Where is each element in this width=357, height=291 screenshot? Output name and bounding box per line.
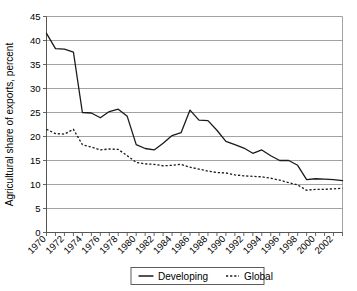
x-tick-label: 1996 [258,233,281,256]
x-tick-label: 2002 [312,233,335,256]
x-tick-label: 1988 [187,233,210,256]
x-tick-label: 1970 [25,233,48,256]
y-tick-label: 40 [30,35,41,46]
y-tick-label: 45 [30,11,41,22]
y-tick-label: 15 [30,155,41,166]
data-series-group [47,33,343,190]
x-tick-label: 1978 [97,233,120,256]
gridlines-group [47,17,343,233]
x-tick-label: 1984 [151,233,174,256]
x-tick-label: 1994 [240,233,263,256]
x-tick-label: 1990 [205,233,228,256]
y-axis-title: Agricultural share of exports, percent [4,43,15,207]
chart-figure: 051015202530354045 197019721974197619781… [0,0,357,291]
x-tick-labels: 1970197219741976197819801982198419861988… [25,233,335,256]
x-tick-label: 2000 [294,233,317,256]
y-tick-label: 30 [30,83,41,94]
x-tick-label: 1992 [223,233,246,256]
y-tick-labels: 051015202530354045 [30,11,41,238]
chart-legend: DevelopingGlobal [131,268,273,285]
plot-frame-group [47,17,343,233]
series-line-developing [47,33,343,180]
y-tick-label: 25 [30,107,41,118]
y-axis-title-text: Agricultural share of exports, percent [4,43,15,207]
y-tick-label: 5 [35,203,40,214]
series-line-global [47,129,343,190]
x-tick-label: 1972 [43,233,66,256]
line-chart: 051015202530354045 197019721974197619781… [0,0,357,291]
y-tick-marks [43,17,47,233]
y-tick-label: 35 [30,59,41,70]
y-tick-label: 20 [30,131,41,142]
x-tick-label: 1980 [115,233,138,256]
y-tick-label: 10 [30,179,41,190]
legend-label-developing: Developing [158,271,208,282]
x-tick-label: 1976 [79,233,102,256]
legend-label-global: Global [244,271,273,282]
x-tick-label: 1982 [133,233,156,256]
x-tick-label: 1974 [61,233,84,256]
x-tick-label: 1986 [169,233,192,256]
x-tick-label: 1998 [276,233,299,256]
